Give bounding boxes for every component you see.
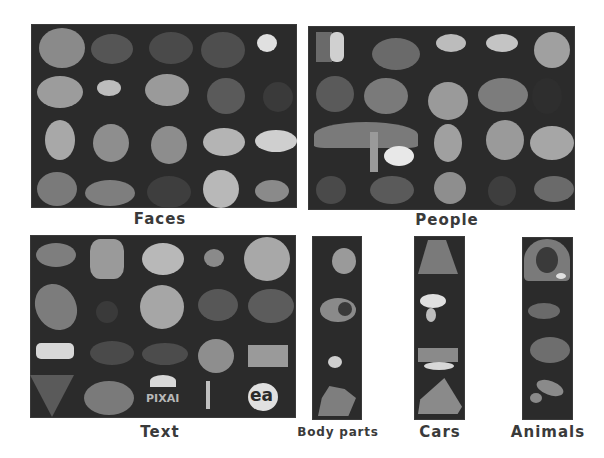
animal-tile xyxy=(530,337,570,363)
text-tile xyxy=(198,289,238,321)
text-tile xyxy=(90,341,134,365)
face-tile xyxy=(201,32,245,68)
person-tile xyxy=(478,78,528,112)
face-tile xyxy=(207,78,245,114)
face-tile xyxy=(147,176,191,208)
person-tile xyxy=(330,32,344,62)
text-tile xyxy=(198,339,234,373)
text-tile xyxy=(140,285,184,329)
person-tile xyxy=(434,124,462,162)
face-tile xyxy=(93,124,129,162)
people-panel xyxy=(308,26,575,210)
person-tile xyxy=(486,34,518,52)
person-tile xyxy=(316,176,346,204)
animals-label: Animals xyxy=(511,423,585,441)
animal-tile xyxy=(556,273,566,279)
person-tile xyxy=(434,172,466,204)
body-part-tile xyxy=(318,386,356,416)
person-tile xyxy=(534,32,570,68)
person-tile xyxy=(316,76,354,112)
person-tile xyxy=(364,78,408,114)
body-parts-panel xyxy=(312,236,362,420)
text-tile xyxy=(204,249,224,267)
text-tile xyxy=(142,243,184,275)
animal-tile xyxy=(528,303,560,319)
text-tile xyxy=(90,239,124,279)
car-tile xyxy=(418,348,458,362)
car-tile xyxy=(418,378,462,414)
face-tile xyxy=(203,128,245,156)
animal-tile xyxy=(536,247,558,273)
person-tile xyxy=(314,122,418,148)
face-tile xyxy=(91,34,133,64)
text-tile xyxy=(30,276,85,338)
car-tile xyxy=(426,308,436,322)
body-part-tile xyxy=(328,356,342,368)
face-tile xyxy=(257,34,277,52)
face-tile xyxy=(45,120,75,160)
face-tile xyxy=(85,180,135,206)
text-tile xyxy=(36,343,74,359)
car-tile xyxy=(420,294,446,308)
face-tile xyxy=(97,80,121,96)
face-tile xyxy=(39,28,85,68)
person-tile xyxy=(534,176,574,202)
pixai-text: PIXAI xyxy=(146,392,179,405)
person-tile xyxy=(530,126,574,160)
face-tile xyxy=(263,82,293,112)
face-tile xyxy=(255,180,289,202)
text-panel: PIXAI ea xyxy=(30,235,296,418)
body-parts-label: Body parts xyxy=(297,425,378,439)
face-tile xyxy=(145,74,189,106)
faces-label: Faces xyxy=(134,210,186,228)
cars-panel xyxy=(414,236,465,420)
face-tile xyxy=(149,32,193,64)
face-tile xyxy=(151,126,187,164)
text-tile xyxy=(206,381,210,409)
person-tile xyxy=(372,38,420,70)
person-tile xyxy=(370,176,414,204)
body-part-tile xyxy=(332,248,356,274)
ea-text: ea xyxy=(250,385,273,405)
car-tile xyxy=(424,362,454,370)
text-tile xyxy=(142,343,188,365)
text-tile xyxy=(30,375,74,417)
text-tile xyxy=(248,345,288,367)
eye-icon xyxy=(338,302,352,316)
people-label: People xyxy=(415,211,479,229)
cars-label: Cars xyxy=(419,423,460,441)
faces-panel xyxy=(31,24,297,208)
face-tile xyxy=(203,170,239,208)
text-label: Text xyxy=(140,423,179,441)
face-tile xyxy=(37,172,77,206)
car-tile xyxy=(418,240,458,274)
person-tile xyxy=(532,78,562,114)
person-tile xyxy=(486,120,524,160)
text-tile xyxy=(150,375,176,387)
animals-panel xyxy=(522,237,573,420)
text-tile xyxy=(84,381,134,415)
person-tile xyxy=(436,34,466,52)
text-tile xyxy=(96,301,118,323)
text-tile xyxy=(36,243,76,267)
text-tile xyxy=(244,237,290,281)
person-tile xyxy=(428,82,468,120)
face-tile xyxy=(37,76,83,108)
text-tile xyxy=(248,289,294,323)
person-tile xyxy=(370,132,378,172)
person-tile xyxy=(384,146,414,166)
animal-tile xyxy=(530,393,542,403)
person-tile xyxy=(488,176,516,206)
face-tile xyxy=(255,130,297,152)
